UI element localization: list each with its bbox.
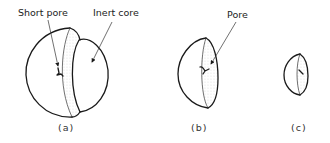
label-inert-core: Inert core — [93, 7, 139, 18]
leader-short-pore — [48, 20, 58, 66]
label-short-pore: Short pore — [18, 7, 68, 18]
leader-pore — [211, 22, 236, 64]
caption-c: (c) — [291, 122, 307, 133]
caption-a: (a) — [58, 122, 74, 133]
caption-b: (b) — [191, 122, 207, 133]
leader-inert-core — [92, 22, 112, 62]
panel-b — [178, 22, 236, 108]
label-pore: Pore — [227, 9, 248, 20]
pellet-diagram: Short pore Inert core Pore (a) (b) (c) — [0, 0, 330, 143]
inert-core-a — [72, 39, 108, 112]
panel-c — [284, 54, 308, 95]
panel-a — [26, 20, 112, 117]
